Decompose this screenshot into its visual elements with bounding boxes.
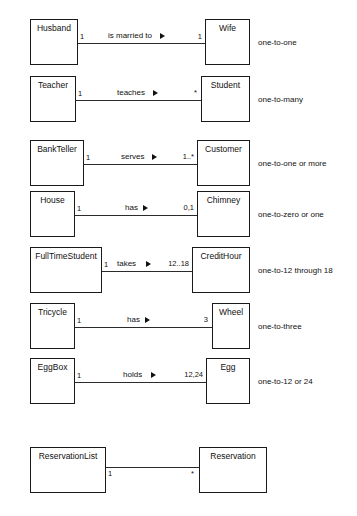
multiplicity-source-teacher: 1 bbox=[78, 89, 82, 98]
direction-triangle-icon bbox=[160, 33, 165, 39]
multiplicity-source-husband: 1 bbox=[80, 32, 84, 41]
class-name-reservationlist: ReservationList bbox=[31, 451, 105, 462]
multiplicity-target-wheel: 3 bbox=[196, 315, 208, 324]
association-line-husband-wife[interactable] bbox=[78, 43, 205, 44]
class-name-eggbox: EggBox bbox=[31, 362, 74, 373]
caption-one-to-one-or-more: one-to-one or more bbox=[258, 159, 326, 169]
class-box-chimney[interactable]: Chimney bbox=[197, 191, 250, 237]
class-box-tricycle[interactable]: Tricycle bbox=[30, 303, 75, 349]
direction-triangle-icon bbox=[151, 372, 156, 378]
caption-one-to-zero-or-one: one-to-zero or one bbox=[258, 210, 324, 220]
class-box-credithour[interactable]: CreditHour bbox=[192, 247, 250, 293]
association-line-bankteller-customer[interactable] bbox=[84, 164, 197, 165]
multiplicity-target-wife: 1 bbox=[190, 32, 202, 41]
multiplicity-target-reservation: * bbox=[182, 469, 194, 478]
association-line-house-chimney[interactable] bbox=[75, 215, 197, 216]
caption-one-to-many: one-to-many bbox=[258, 95, 303, 105]
class-name-husband: Husband bbox=[31, 23, 77, 34]
class-box-student[interactable]: Student bbox=[201, 76, 250, 122]
class-box-customer[interactable]: Customer bbox=[197, 140, 250, 186]
class-box-wife[interactable]: Wife bbox=[205, 19, 250, 65]
association-verb-has: has bbox=[127, 315, 140, 325]
class-name-teacher: Teacher bbox=[31, 80, 75, 91]
class-box-wheel[interactable]: Wheel bbox=[212, 303, 250, 349]
association-line-teacher-student[interactable] bbox=[76, 100, 201, 101]
association-verb-has: has bbox=[125, 203, 138, 213]
class-box-egg[interactable]: Egg bbox=[206, 358, 250, 404]
class-name-credithour: CreditHour bbox=[193, 251, 249, 262]
direction-triangle-icon bbox=[145, 317, 150, 323]
association-verb-holds: holds bbox=[123, 370, 142, 380]
class-box-reservationlist[interactable]: ReservationList bbox=[30, 447, 106, 493]
caption-one-to-12-or-24: one-to-12 or 24 bbox=[258, 377, 313, 387]
association-verb-serves: serves bbox=[121, 152, 145, 162]
class-box-eggbox[interactable]: EggBox bbox=[30, 358, 75, 404]
caption-one-to-three: one-to-three bbox=[258, 322, 302, 332]
multiplicity-target-egg: 12,24 bbox=[172, 370, 203, 379]
class-box-house[interactable]: House bbox=[30, 191, 75, 237]
multiplicity-source-reservationlist: 1 bbox=[108, 469, 112, 478]
multiplicity-target-chimney: 0,1 bbox=[170, 203, 194, 212]
class-box-fulltimestudent[interactable]: FullTimeStudent bbox=[30, 247, 102, 293]
association-verb-takes: takes bbox=[117, 259, 136, 269]
class-name-bankteller: BankTeller bbox=[31, 144, 83, 155]
direction-triangle-icon bbox=[153, 90, 158, 96]
association-verb-teaches: teaches bbox=[117, 88, 145, 98]
multiplicity-target-customer: 1..* bbox=[168, 152, 194, 161]
class-name-student: Student bbox=[202, 80, 249, 91]
caption-one-to-one: one-to-one bbox=[258, 38, 297, 48]
class-name-wheel: Wheel bbox=[213, 307, 249, 318]
caption-one-to-12-through-18: one-to-12 through 18 bbox=[258, 266, 333, 276]
multiplicity-source-eggbox: 1 bbox=[77, 371, 81, 380]
class-name-reservation: Reservation bbox=[200, 451, 266, 462]
class-name-egg: Egg bbox=[207, 362, 249, 373]
association-line-tricycle-wheel[interactable] bbox=[75, 327, 212, 328]
association-line-fulltimestudent-credithour[interactable] bbox=[102, 271, 192, 272]
association-line-eggbox-egg[interactable] bbox=[75, 382, 206, 383]
multiplicity-source-tricycle: 1 bbox=[77, 316, 81, 325]
uml-class-diagram: Husband 1 is married to 1 Wife one-to-on… bbox=[0, 0, 357, 516]
class-name-customer: Customer bbox=[198, 144, 249, 155]
multiplicity-source-fulltimestudent: 1 bbox=[104, 260, 108, 269]
class-box-husband[interactable]: Husband bbox=[30, 19, 78, 65]
direction-triangle-icon bbox=[152, 154, 157, 160]
association-verb-is-married-to: is married to bbox=[108, 31, 152, 41]
multiplicity-source-bankteller: 1 bbox=[86, 153, 90, 162]
direction-triangle-icon bbox=[146, 261, 151, 267]
class-name-fulltimestudent: FullTimeStudent bbox=[31, 251, 101, 262]
multiplicity-target-credithour: 12..18 bbox=[160, 259, 189, 268]
class-name-wife: Wife bbox=[206, 23, 249, 34]
multiplicity-target-student: * bbox=[185, 88, 197, 97]
class-name-tricycle: Tricycle bbox=[31, 307, 74, 318]
class-box-reservation[interactable]: Reservation bbox=[199, 447, 267, 493]
class-box-bankteller[interactable]: BankTeller bbox=[30, 140, 84, 186]
association-line-reservationlist-reservation[interactable] bbox=[106, 467, 199, 468]
direction-triangle-icon bbox=[143, 205, 148, 211]
multiplicity-source-house: 1 bbox=[77, 204, 81, 213]
class-name-house: House bbox=[31, 195, 74, 206]
class-box-teacher[interactable]: Teacher bbox=[30, 76, 76, 122]
class-name-chimney: Chimney bbox=[198, 195, 249, 206]
